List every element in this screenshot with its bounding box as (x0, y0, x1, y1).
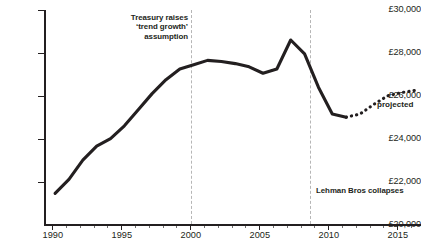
series-line-actual (55, 40, 346, 193)
chart-container: £30,000 £28,000 £26,000 £24,000 £22,000 … (0, 0, 421, 239)
annotation-projected: projected (377, 100, 413, 109)
cropped-caption (0, 232, 421, 239)
annotation-treasury: Treasury raises‘trend growth’assumption (92, 13, 188, 41)
series-layer (0, 0, 421, 239)
annotation-lehman: Lehman Bros collapses (316, 186, 420, 195)
